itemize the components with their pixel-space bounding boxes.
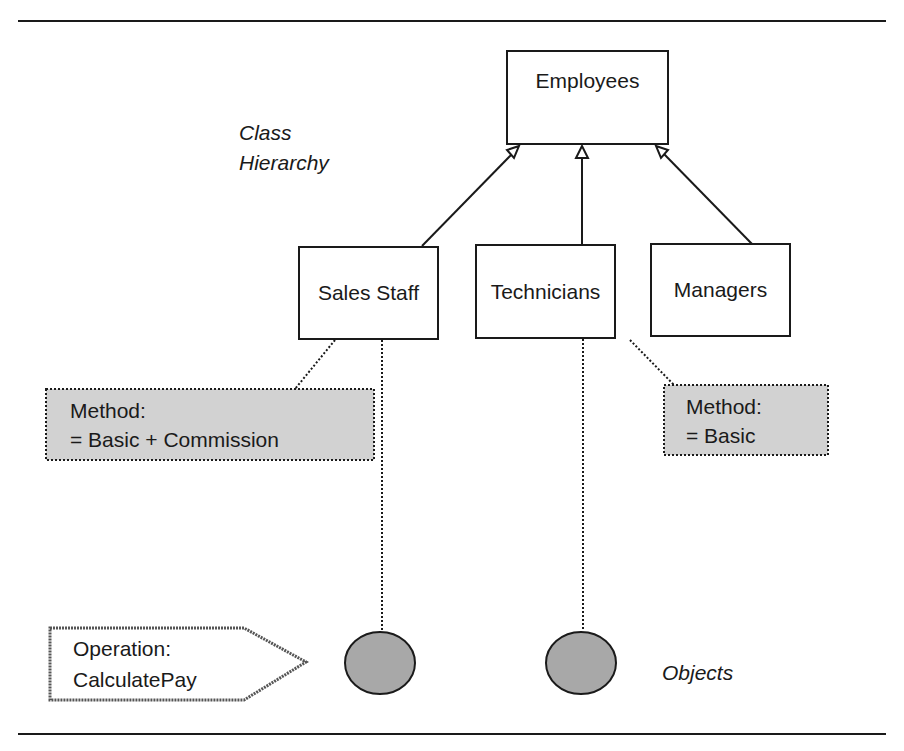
- operation-text: Operation: CalculatePay: [73, 633, 197, 695]
- technicians-label: Technicians: [476, 245, 615, 338]
- sales-staff-label: Sales Staff: [299, 247, 438, 339]
- operation-line1: Operation:: [73, 633, 197, 664]
- sales-method-line1: Method:: [70, 396, 279, 425]
- sales-object-circle: [345, 632, 415, 694]
- tech-method-line2: = Basic: [686, 421, 762, 450]
- tech-method-text: Method: = Basic: [686, 392, 762, 450]
- employees-label: Employees: [507, 51, 668, 111]
- inherit-line-sales: [422, 154, 512, 246]
- class-hierarchy-label: Class Hierarchy: [239, 118, 329, 178]
- sales-method-line2: = Basic + Commission: [70, 425, 279, 454]
- arrowhead-icon: [576, 146, 588, 158]
- tech-method-connector: [630, 340, 676, 387]
- tech-method-line1: Method:: [686, 392, 762, 421]
- class-hierarchy-line1: Class: [239, 118, 329, 148]
- sales-method-connector: [295, 340, 335, 389]
- tech-object-circle: [546, 632, 616, 694]
- class-hierarchy-line2: Hierarchy: [239, 148, 329, 178]
- sales-method-text: Method: = Basic + Commission: [70, 396, 279, 454]
- operation-line2: CalculatePay: [73, 664, 197, 695]
- objects-label: Objects: [662, 660, 733, 686]
- inherit-line-managers: [664, 154, 752, 244]
- managers-label: Managers: [651, 244, 790, 336]
